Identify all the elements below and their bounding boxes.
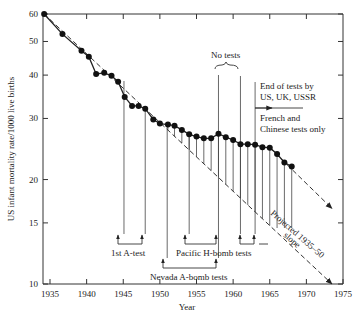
- end-tests-label-2: US, UK, USSR: [260, 92, 316, 102]
- data-point: [101, 70, 107, 76]
- data-point: [274, 151, 280, 157]
- data-point: [93, 71, 99, 77]
- first-a-test-label: 1st A-test: [111, 248, 146, 258]
- data-point: [157, 121, 163, 127]
- data-point: [179, 127, 185, 133]
- x-tick-label: 1960: [224, 289, 243, 299]
- x-tick-label: 1945: [114, 289, 133, 299]
- y-tick-label: 10: [29, 279, 39, 289]
- data-point: [281, 159, 287, 165]
- x-tick-label: 1975: [334, 289, 353, 299]
- x-tick-label: 1970: [297, 289, 316, 299]
- data-point: [41, 11, 47, 17]
- data-point: [115, 79, 121, 85]
- data-point: [208, 135, 214, 141]
- data-point: [186, 131, 192, 137]
- data-point: [109, 73, 115, 79]
- data-point: [259, 144, 265, 150]
- x-tick-label: 1965: [261, 289, 280, 299]
- end-tests-label-1: End of tests by: [260, 81, 314, 91]
- y-tick-label: 50: [29, 36, 39, 46]
- nevada-a-bomb-label: Nevada A-bomb tests: [150, 272, 228, 282]
- data-point: [215, 131, 221, 137]
- data-point: [136, 103, 142, 109]
- data-point: [201, 135, 207, 141]
- y-tick-label: 40: [29, 70, 39, 80]
- x-tick-label: 1955: [188, 289, 207, 299]
- data-point: [223, 134, 229, 140]
- data-point: [129, 103, 135, 109]
- french-label-1: French and: [260, 113, 301, 123]
- x-tick-label: 1940: [78, 289, 97, 299]
- data-point: [267, 145, 273, 151]
- y-tick-label: 15: [29, 218, 39, 228]
- data-point: [86, 54, 92, 60]
- no-tests-label: No tests: [211, 50, 241, 60]
- data-point: [237, 141, 243, 147]
- data-point: [165, 122, 171, 128]
- french-label-2: Chinese tests only: [260, 124, 326, 134]
- data-point: [252, 142, 258, 148]
- deviation-drop-lines: [124, 75, 292, 258]
- y-tick-label: 30: [29, 113, 39, 123]
- data-point: [59, 31, 65, 37]
- data-point: [230, 137, 236, 143]
- data-point: [289, 164, 295, 170]
- data-point: [194, 134, 200, 140]
- x-axis-title: Year: [179, 302, 196, 312]
- data-point: [245, 141, 251, 147]
- data-point: [172, 123, 178, 129]
- data-point: [142, 106, 148, 112]
- y-tick-label: 60: [29, 9, 39, 19]
- y-tick-label: 20: [29, 175, 39, 185]
- data-point: [122, 94, 128, 100]
- infant-mortality-chart: 10152030405060 1935194019451950195519601…: [0, 0, 357, 319]
- mortality-series: [41, 11, 295, 170]
- data-point: [78, 48, 84, 54]
- x-tick-label: 1950: [151, 289, 170, 299]
- y-axis-title: US infant mortality rate/1000 live birth…: [6, 76, 16, 221]
- pacific-h-bomb-label: Pacific H-bomb tests: [176, 248, 252, 258]
- x-tick-label: 1935: [41, 289, 60, 299]
- data-point: [150, 116, 156, 122]
